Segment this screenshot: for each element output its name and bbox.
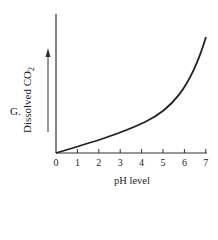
x-axis-label: pH level: [102, 175, 162, 186]
x-tick-label: 7: [200, 157, 212, 168]
x-tick-label: 3: [114, 157, 126, 168]
x-tick-label: 1: [71, 157, 83, 168]
x-tick-label: 4: [136, 157, 148, 168]
data-curve: [56, 37, 206, 153]
x-tick-label: 0: [50, 157, 62, 168]
option-label: G.: [10, 105, 21, 117]
x-tick-label: 5: [157, 157, 169, 168]
y-axis-label: Dissolved CO2: [21, 67, 36, 133]
x-tick-label: 2: [93, 157, 105, 168]
arrow-head-icon: [46, 48, 51, 57]
x-tick-label: 6: [178, 157, 190, 168]
